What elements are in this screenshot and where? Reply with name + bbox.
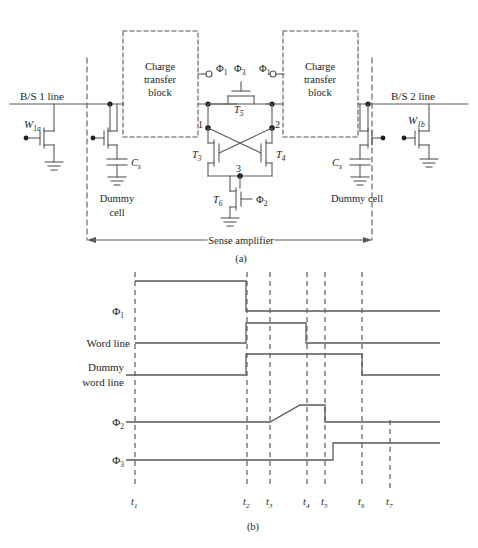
timing-label-dummy-word-line-line1: Dummy bbox=[88, 361, 125, 373]
t3-label: T3 bbox=[192, 149, 202, 163]
sense-amp-arrowhead-left bbox=[87, 237, 96, 243]
cap-right-label: Cs bbox=[332, 157, 342, 171]
waveform-word-line bbox=[135, 323, 440, 343]
waveform-phi3 bbox=[126, 443, 440, 460]
dummy-cell-right-label: Dummy cell bbox=[331, 193, 383, 204]
time-mark-label-t3: t3 bbox=[266, 496, 273, 510]
time-mark-label-t2: t2 bbox=[243, 496, 250, 510]
timing-label-phi3: Φ3 bbox=[112, 454, 124, 469]
timing-label-phi2-sub: 2 bbox=[120, 422, 124, 431]
timing-label-phi1-sub: 1 bbox=[120, 311, 124, 320]
time-mark-label-t5: t5 bbox=[321, 496, 328, 510]
time-mark-label-t3-sub: 3 bbox=[268, 502, 273, 510]
w1a-gate-dot bbox=[24, 136, 29, 141]
phi1-right-label: Φ1 bbox=[259, 63, 271, 77]
wordline-left-sub: 1a bbox=[33, 124, 41, 133]
time-mark-label-t5-sub: 5 bbox=[324, 502, 328, 510]
cross-couple-left-to-right-gate bbox=[208, 128, 261, 153]
waveform-phi1 bbox=[135, 281, 440, 311]
time-mark-label-t6-sub: 6 bbox=[361, 502, 365, 510]
charge-transfer-block-left-line1: Charge bbox=[145, 61, 175, 72]
t5-label: T5 bbox=[234, 104, 244, 118]
timing-label-phi1: Φ1 bbox=[112, 305, 124, 320]
timing-label-phi3-sub: 3 bbox=[120, 460, 124, 469]
t6-sub: 6 bbox=[219, 199, 223, 208]
timing-label-word-line: Word line bbox=[87, 337, 131, 349]
bitline-2-label: B/S 2 line bbox=[391, 90, 435, 102]
time-mark-label-t4-sub: 4 bbox=[306, 502, 310, 510]
wordline-right-sub: 1b bbox=[417, 120, 425, 129]
cap-right-sub: s bbox=[339, 162, 342, 171]
panel-b-caption: (b) bbox=[247, 521, 260, 533]
cap-left-sub: s bbox=[138, 162, 141, 171]
wordline-right-label: W1b bbox=[408, 114, 425, 129]
dummy-cell-left-line2: cell bbox=[109, 207, 124, 218]
panel-a-labels: B/S 1 line B/S 2 line W1a W1b Charge tra… bbox=[20, 61, 435, 265]
time-mark-label-t2-sub: 2 bbox=[246, 502, 250, 510]
t5-sub: 5 bbox=[240, 109, 244, 118]
phi2-label: Φ2 bbox=[256, 194, 268, 208]
timing-label-dummy-word-line-line2: word line bbox=[82, 376, 124, 388]
t3-sub: 3 bbox=[197, 154, 202, 163]
node-2-label: 2 bbox=[275, 119, 280, 130]
timing-label-phi2: Φ2 bbox=[112, 416, 124, 431]
node-1-label: 1 bbox=[198, 119, 203, 130]
phi2-sub: 2 bbox=[264, 199, 268, 208]
time-mark-label-t7: t7 bbox=[386, 496, 393, 510]
dummy-left-gate-dot bbox=[91, 136, 96, 141]
time-mark-label-t1-sub: 1 bbox=[134, 502, 138, 510]
waveform-phi2 bbox=[126, 405, 440, 422]
phi3-label: Φ3 bbox=[234, 63, 246, 77]
w1b-gate-dot bbox=[402, 136, 407, 141]
charge-transfer-block-right-line3: block bbox=[308, 87, 332, 98]
time-mark-label-t1: t1 bbox=[131, 496, 137, 510]
waveform-dummy-word-line bbox=[126, 354, 440, 375]
cap-left-label: Cs bbox=[131, 157, 141, 171]
panel-b-timing: Φ1 Word line Dummy word line Φ2 Φ3 t1 t2… bbox=[82, 272, 440, 533]
circuit-and-timing-figure: B/S 1 line B/S 2 line W1a W1b Charge tra… bbox=[0, 0, 478, 548]
phi1-left-sub: 1 bbox=[224, 68, 228, 77]
charge-transfer-block-right-line1: Charge bbox=[305, 61, 335, 72]
sense-amp-arrowhead-right bbox=[363, 237, 372, 243]
dummy-right-gate-dot bbox=[381, 136, 386, 141]
phi1-left-label: Φ1 bbox=[216, 63, 228, 77]
figure-root: B/S 1 line B/S 2 line W1a W1b Charge tra… bbox=[0, 0, 478, 548]
time-mark-label-t7-sub: 7 bbox=[389, 502, 393, 510]
phi1-right-sub: 1 bbox=[267, 68, 271, 77]
sense-amplifier-label: Sense amplifier bbox=[208, 235, 274, 246]
phi1-left-terminal bbox=[206, 71, 212, 77]
time-mark-label-t4: t4 bbox=[303, 496, 310, 510]
cross-couple-right-to-left-gate bbox=[219, 128, 272, 153]
time-mark-label-t6: t6 bbox=[358, 496, 365, 510]
t6-label: T6 bbox=[213, 194, 223, 208]
charge-transfer-block-left-line2: transfer bbox=[144, 74, 177, 85]
node-3-label: 3 bbox=[236, 163, 241, 174]
phi1-right-terminal bbox=[270, 71, 276, 77]
t4-sub: 4 bbox=[282, 154, 286, 163]
wordline-left-label: W1a bbox=[24, 118, 41, 133]
charge-transfer-block-right-line2: transfer bbox=[304, 74, 337, 85]
charge-transfer-block-left-line3: block bbox=[148, 87, 172, 98]
phi3-sub: 3 bbox=[242, 68, 246, 77]
dummy-cell-left-line1: Dummy bbox=[100, 193, 135, 204]
panel-a-caption: (a) bbox=[235, 253, 247, 265]
bitline-1-label: B/S 1 line bbox=[20, 90, 64, 102]
t4-label: T4 bbox=[276, 149, 286, 163]
